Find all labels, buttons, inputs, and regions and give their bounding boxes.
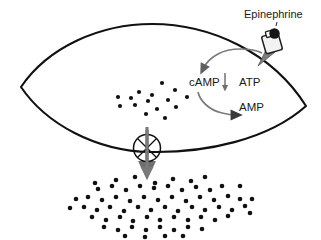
camp-label: cAMP	[189, 76, 220, 88]
diagram-canvas: Epinephrine cAMP ATP AMP	[0, 0, 321, 240]
dot	[199, 215, 204, 220]
dot	[238, 184, 243, 189]
dot	[114, 178, 119, 183]
dot	[144, 112, 148, 116]
dot	[172, 215, 177, 220]
dot	[96, 187, 101, 192]
dot	[138, 184, 143, 189]
dot	[200, 227, 205, 232]
dot	[152, 186, 157, 191]
dot	[198, 195, 203, 200]
dot	[208, 188, 213, 193]
dot	[185, 95, 189, 99]
dot	[123, 234, 128, 239]
dot	[163, 234, 168, 239]
dot	[146, 99, 150, 103]
dot	[145, 215, 150, 220]
dot	[166, 98, 170, 102]
dot	[155, 107, 159, 111]
dot	[122, 209, 127, 214]
dot	[238, 197, 243, 202]
epinephrine-label: Epinephrine	[244, 8, 303, 20]
dot	[220, 184, 225, 189]
dot	[116, 228, 121, 233]
dot	[129, 96, 133, 100]
dot	[184, 199, 189, 204]
dot	[102, 225, 107, 230]
dot	[90, 215, 95, 220]
dot	[131, 219, 136, 224]
dot	[133, 103, 137, 107]
dot	[230, 208, 235, 213]
dot	[176, 209, 181, 214]
dot	[153, 181, 158, 186]
dot	[203, 208, 208, 213]
epinephrine-ligand-icon	[269, 28, 279, 38]
dot	[189, 179, 194, 184]
epinephrine-leader-line	[276, 22, 277, 26]
dot	[250, 197, 255, 202]
dot	[116, 95, 120, 99]
dot	[243, 204, 248, 209]
dot	[163, 205, 168, 210]
dot	[180, 188, 185, 193]
dot	[190, 205, 195, 210]
dot	[160, 81, 164, 85]
dot	[74, 197, 79, 202]
dot	[118, 215, 123, 220]
dot	[124, 188, 129, 193]
dot	[170, 195, 175, 200]
dot	[212, 198, 217, 203]
dot	[172, 228, 177, 233]
efflux-arrow-head	[141, 167, 154, 178]
dot	[213, 218, 218, 223]
dot	[104, 218, 109, 223]
dot	[142, 195, 147, 200]
extracellular-dot-cloud	[68, 175, 255, 240]
dot	[248, 211, 253, 216]
dot	[163, 116, 167, 120]
dot	[110, 184, 115, 189]
dot	[150, 93, 154, 97]
receptor-group	[258, 22, 283, 66]
dot	[130, 225, 135, 230]
dot	[68, 206, 73, 211]
dot	[100, 198, 105, 203]
dot	[128, 199, 133, 204]
dot	[149, 208, 154, 213]
dot	[118, 104, 122, 108]
dot	[95, 208, 100, 213]
dot	[86, 195, 91, 200]
dot	[136, 205, 141, 210]
cell-signaling-diagram: Epinephrine cAMP ATP AMP	[0, 0, 321, 240]
dot	[108, 205, 113, 210]
dot	[137, 90, 141, 94]
dot	[186, 218, 191, 223]
dot	[171, 177, 176, 182]
dot	[93, 181, 98, 186]
dot	[217, 205, 222, 210]
dot	[181, 234, 186, 239]
dot	[114, 195, 119, 200]
dot	[144, 228, 149, 233]
dot	[156, 198, 161, 203]
dot	[143, 235, 148, 240]
dot	[194, 185, 199, 190]
dot	[174, 105, 178, 109]
amp-label: AMP	[239, 101, 264, 113]
dot	[82, 205, 87, 210]
dot	[186, 225, 191, 230]
atp-label: ATP	[239, 76, 261, 88]
dot	[203, 175, 208, 180]
dot	[173, 88, 177, 92]
dot	[166, 184, 171, 189]
dot	[226, 194, 231, 199]
dot	[158, 225, 163, 230]
dot	[226, 214, 231, 219]
dot	[133, 175, 138, 180]
dot	[158, 218, 163, 223]
